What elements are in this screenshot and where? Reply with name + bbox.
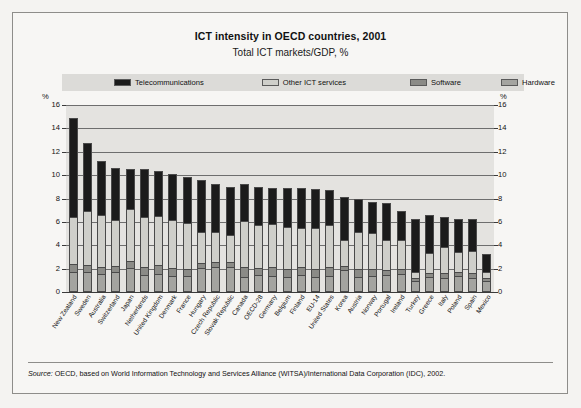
- bar-segment: [455, 220, 462, 252]
- bar-segment: [341, 270, 348, 291]
- stacked-bar: [154, 171, 163, 292]
- y-axis-tick-label-left: 0: [36, 288, 60, 296]
- y-axis-tick-label-right: 12: [498, 148, 522, 156]
- bar-segment: [84, 211, 91, 265]
- bar-segment: [155, 265, 162, 274]
- bar-segment: [198, 181, 205, 232]
- bar-segment: [212, 267, 219, 291]
- bar-column: [109, 105, 123, 292]
- y-axis-tick-label-left: 14: [36, 124, 60, 132]
- bar-segment: [369, 203, 376, 233]
- bar-segment: [255, 275, 262, 291]
- bar-segment: [227, 188, 234, 235]
- bar-segment: [169, 175, 176, 220]
- bar-segment: [469, 251, 476, 273]
- source-text: OECD, based on World Information Technol…: [55, 369, 445, 378]
- bar-segment: [98, 215, 105, 267]
- bar-segment: [84, 144, 91, 211]
- stacked-bar: [440, 217, 449, 292]
- category-label-slot: United Kingdom: [152, 294, 166, 356]
- bar-segment: [455, 276, 462, 291]
- bar-segment: [127, 261, 134, 268]
- category-label-slot: Sweden: [80, 294, 94, 356]
- bar-segment: [298, 228, 305, 268]
- bar-segment: [112, 169, 119, 220]
- y-axis-tick-label-right: 8: [498, 195, 522, 203]
- bar-column: [237, 105, 251, 292]
- bar-column: [166, 105, 180, 292]
- bar-segment: [212, 232, 219, 262]
- bar-segment: [70, 272, 77, 291]
- stacked-bar: [283, 188, 292, 292]
- y-axis-tick-mark: [62, 175, 66, 176]
- bar-column: [152, 105, 166, 292]
- bar-segment: [227, 235, 234, 262]
- y-axis-tick-label-right: 16: [498, 101, 522, 109]
- category-label-slot: Spain: [465, 294, 479, 356]
- y-axis-tick-mark: [494, 222, 498, 223]
- bar-segment: [141, 217, 148, 268]
- stacked-bar: [368, 202, 377, 292]
- bar-segment: [70, 119, 77, 218]
- bar-segment: [169, 220, 176, 268]
- bar-segment: [241, 267, 248, 276]
- stacked-bar: [168, 174, 177, 292]
- y-axis-tick-mark: [494, 269, 498, 270]
- bar-segment: [141, 275, 148, 291]
- bar-segment: [441, 218, 448, 247]
- y-axis-tick-mark: [494, 245, 498, 246]
- y-axis-tick-label-left: 16: [36, 101, 60, 109]
- bar-segment: [383, 240, 390, 270]
- y-axis-tick-mark: [62, 245, 66, 246]
- bar-segment: [355, 269, 362, 276]
- bar-segment: [98, 267, 105, 274]
- bar-segment: [398, 212, 405, 240]
- bar-column: [280, 105, 294, 292]
- bar-segment: [284, 227, 291, 269]
- bar-segment: [326, 225, 333, 267]
- bar-segment: [369, 276, 376, 291]
- bar-segment: [269, 189, 276, 225]
- y-axis-tick-mark: [494, 199, 498, 200]
- stacked-bar: [397, 211, 406, 292]
- bar-segment: [241, 221, 248, 267]
- bars-container: [66, 105, 494, 292]
- stacked-bar: [425, 215, 434, 292]
- category-label-slot: Turkey: [408, 294, 422, 356]
- source-divider: [28, 362, 553, 363]
- bar-segment: [241, 277, 248, 291]
- bar-column: [366, 105, 380, 292]
- bar-segment: [426, 216, 433, 253]
- y-axis-tick-mark: [62, 105, 66, 106]
- bar-segment: [398, 240, 405, 268]
- bar-segment: [284, 277, 291, 291]
- bar-column: [251, 105, 265, 292]
- bar-column: [123, 105, 137, 292]
- bar-column: [480, 105, 494, 292]
- category-label-slot: Norway: [366, 294, 380, 356]
- bar-column: [423, 105, 437, 292]
- bar-segment: [412, 220, 419, 271]
- bar-column: [394, 105, 408, 292]
- stacked-bar: [325, 190, 334, 292]
- y-axis-tick-label-right: 0: [498, 288, 522, 296]
- bar-segment: [412, 272, 419, 279]
- bar-segment: [298, 267, 305, 274]
- bar-segment: [369, 233, 376, 268]
- source-label: Source:: [28, 369, 53, 378]
- bar-segment: [184, 269, 191, 276]
- bar-segment: [212, 185, 219, 232]
- bar-segment: [112, 266, 119, 273]
- bar-segment: [127, 268, 134, 291]
- bar-segment: [70, 264, 77, 271]
- bar-segment: [155, 274, 162, 291]
- bar-column: [465, 105, 479, 292]
- stacked-bar: [354, 199, 363, 292]
- bar-segment: [355, 232, 362, 269]
- bar-column: [309, 105, 323, 292]
- bar-segment: [312, 190, 319, 228]
- bar-column: [294, 105, 308, 292]
- bar-segment: [141, 170, 148, 217]
- stacked-bar: [83, 143, 92, 292]
- bar-segment: [155, 172, 162, 216]
